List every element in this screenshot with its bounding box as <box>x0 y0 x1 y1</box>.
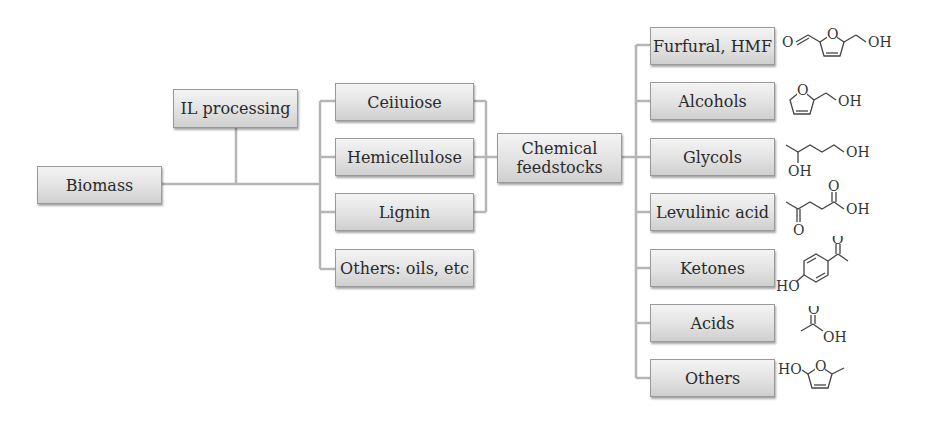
node-il-processing: IL processing <box>173 89 298 128</box>
svg-text:O: O <box>827 26 838 42</box>
node-cellulose-label: Ceiiuiose <box>367 93 442 112</box>
svg-text:OH: OH <box>868 34 892 50</box>
node-furfural-hmf-label: Furfural, HMF <box>653 37 772 56</box>
furfuryl-alcohol-structure-icon: O OH <box>780 78 900 118</box>
svg-text:O: O <box>808 306 819 317</box>
node-chemical-feedstocks: Chemical feedstocks <box>497 133 622 183</box>
node-others-label: Others <box>685 369 740 388</box>
node-acids-label: Acids <box>690 314 734 333</box>
node-biomass-label: Biomass <box>66 176 134 195</box>
acetic-acid-structure-icon: O OH <box>795 306 875 351</box>
glycol-structure-icon: OH OH <box>782 135 892 180</box>
node-ketones: Ketones <box>650 249 775 287</box>
ketone-structure-icon: O HO <box>776 236 886 296</box>
node-il-processing-label: IL processing <box>180 99 290 118</box>
node-others: Others <box>650 359 775 397</box>
methylfuranol-structure-icon: O HO <box>778 360 878 405</box>
node-glycols: Glycols <box>650 138 775 176</box>
svg-text:O: O <box>797 82 808 98</box>
node-levulinic-acid: Levulinic acid <box>650 193 775 231</box>
svg-text:O: O <box>832 236 843 247</box>
node-hemicellulose: Hemicellulose <box>335 138 474 176</box>
hub-label-line1: Chemical <box>522 139 598 158</box>
node-furfural-hmf: Furfural, HMF <box>650 27 775 65</box>
node-cellulose: Ceiiuiose <box>335 83 474 121</box>
node-glycols-label: Glycols <box>683 148 742 167</box>
node-biomass: Biomass <box>37 166 162 204</box>
svg-text:OH: OH <box>846 144 870 160</box>
node-hemicellulose-label: Hemicellulose <box>347 148 462 167</box>
svg-text:HO: HO <box>776 278 800 294</box>
node-ketones-label: Ketones <box>680 259 745 278</box>
hub-label-line2: feedstocks <box>516 158 602 177</box>
flow-diagram: Biomass IL processing Ceiiuiose Hemicell… <box>0 0 931 424</box>
node-lignin: Lignin <box>335 193 474 231</box>
node-others-oils-label: Others: oils, etc <box>340 259 469 278</box>
svg-text:OH: OH <box>846 201 870 217</box>
levulinic-acid-structure-icon: O OH O <box>782 180 892 240</box>
svg-text:O: O <box>782 34 793 50</box>
svg-text:OH: OH <box>838 93 862 109</box>
node-alcohols-label: Alcohols <box>678 92 747 111</box>
node-others-oils: Others: oils, etc <box>335 249 474 287</box>
svg-text:OH: OH <box>823 329 847 345</box>
svg-text:O: O <box>815 360 826 374</box>
hmf-structure-icon: O O OH <box>780 20 930 65</box>
node-acids: Acids <box>650 304 775 342</box>
svg-text:HO: HO <box>778 361 802 377</box>
node-alcohols: Alcohols <box>650 82 775 120</box>
node-levulinic-acid-label: Levulinic acid <box>656 203 769 222</box>
svg-text:O: O <box>828 180 839 194</box>
svg-text:OH: OH <box>788 163 812 179</box>
node-lignin-label: Lignin <box>379 203 431 222</box>
